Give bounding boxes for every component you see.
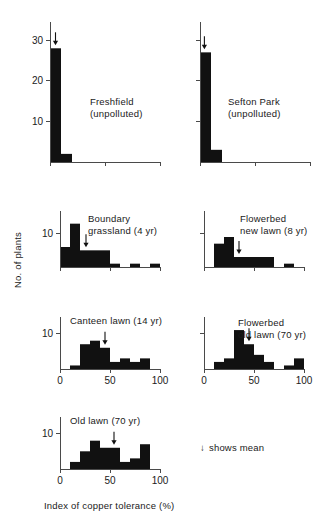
- histogram-bar: [100, 250, 110, 267]
- mean-arrow-marker: [111, 432, 116, 445]
- histogram-bar: [214, 362, 224, 369]
- panel-canteen-lawn: 05010010 Canteen lawn (14 yr): [42, 313, 164, 385]
- caption-line-1: Canteen lawn (14 yr): [70, 315, 162, 326]
- y-axis-tick-label: 20: [32, 75, 44, 86]
- histogram-bar: [100, 348, 110, 369]
- histogram-bar: [110, 362, 120, 369]
- panel-caption-canteen-lawn: Canteen lawn (14 yr): [70, 315, 162, 327]
- mean-arrow-marker: [83, 234, 88, 247]
- caption-line-2: (unpolluted): [90, 108, 143, 119]
- histogram-bar: [214, 244, 224, 267]
- histogram-bar: [284, 365, 294, 369]
- x-axis-tick-label: 50: [104, 375, 116, 386]
- panel-caption-old-lawn: Old lawn (70 yr): [70, 415, 140, 427]
- mean-arrow-marker: [102, 332, 107, 345]
- histogram-bar: [70, 462, 80, 469]
- histogram-bar: [254, 257, 264, 267]
- y-axis-tick-label: 30: [32, 35, 44, 46]
- y-axis-tick-label: 10: [42, 228, 54, 239]
- y-axis-title: No. of plants: [12, 232, 23, 288]
- x-axis-tick-label: 100: [152, 375, 169, 386]
- caption-line-2: old lawn (70 yr): [238, 329, 306, 340]
- histogram-bar: [60, 247, 70, 267]
- legend-mean-label: shows mean: [209, 442, 264, 453]
- caption-line-1: Freshfield: [90, 96, 134, 107]
- mean-arrow-marker: [236, 241, 241, 254]
- x-axis-tick-label: 100: [296, 375, 313, 386]
- x-axis-tick-label: 50: [104, 475, 116, 486]
- x-axis-tick-label: 0: [57, 375, 63, 386]
- panel-caption-sefton-park: Sefton Park(unpolluted): [228, 96, 281, 119]
- x-axis-tick-label: 50: [248, 375, 260, 386]
- histogram-bar: [90, 441, 100, 469]
- caption-line-1: Flowerbed: [238, 317, 284, 328]
- mean-arrow-marker: [53, 32, 58, 45]
- panel-caption-flowerbed-new-lawn: Flowerbednew lawn (8 yr): [240, 213, 307, 236]
- caption-line-1: Old lawn (70 yr): [70, 415, 140, 426]
- histogram-bar: [80, 344, 90, 369]
- histogram-bar: [80, 451, 90, 469]
- caption-line-1: Boundary: [88, 213, 130, 224]
- caption-line-2: (unpolluted): [228, 108, 281, 119]
- panel-boundary-grassland: 10 Boundarygrassland (4 yr): [42, 207, 164, 283]
- caption-line-1: Sefton Park: [228, 96, 280, 107]
- histogram-bar: [244, 344, 254, 369]
- x-axis-tick-label: 100: [152, 475, 169, 486]
- legend-mean-note: ↓shows mean: [200, 442, 264, 453]
- histogram-bar: [120, 358, 130, 369]
- histogram-bar: [254, 355, 264, 369]
- histogram-bar: [61, 154, 72, 162]
- mean-arrow-marker: [202, 36, 207, 49]
- histogram-bar: [140, 444, 150, 469]
- panel-old-lawn: 05010010 Old lawn (70 yr): [42, 413, 164, 485]
- histogram-bar: [264, 362, 274, 369]
- histogram-bar: [80, 250, 90, 267]
- x-axis-tick-label: 0: [57, 475, 63, 486]
- down-arrow-icon: ↓: [200, 442, 205, 453]
- x-axis-title: Index of copper tolerance (%): [44, 500, 174, 511]
- panel-flowerbed-old-lawn: 050100 Flowerbedold lawn (70 yr): [186, 313, 308, 385]
- histogram-bar: [294, 358, 304, 369]
- histogram-bar: [120, 462, 130, 469]
- y-axis-tick-label: 10: [32, 116, 44, 127]
- panel-freshfield: 102030 Freshfield(unpolluted): [32, 18, 164, 178]
- histogram-bar: [70, 224, 80, 267]
- copper-tolerance-figure: 102030 Freshfield(unpolluted) Sefton Par…: [0, 0, 328, 522]
- histogram-bar: [244, 257, 254, 267]
- caption-line-2: grassland (4 yr): [88, 225, 157, 236]
- caption-line-2: new lawn (8 yr): [240, 225, 307, 236]
- histogram-bar: [90, 341, 100, 369]
- histogram-bar: [110, 448, 120, 469]
- histogram-bar: [200, 52, 211, 162]
- y-axis-tick-label: 10: [42, 328, 54, 339]
- panel-caption-freshfield: Freshfield(unpolluted): [90, 96, 143, 119]
- x-axis-tick-label: 0: [201, 375, 207, 386]
- histogram-bar: [130, 362, 140, 369]
- histogram-bar: [50, 48, 61, 162]
- histogram-bar: [211, 150, 222, 162]
- histogram-bar: [234, 257, 244, 267]
- histogram-bar: [90, 250, 100, 267]
- histogram-bar: [130, 458, 140, 469]
- histogram-bar: [224, 237, 234, 267]
- histogram-bar: [224, 358, 234, 369]
- panel-sefton-park: Sefton Park(unpolluted): [182, 18, 314, 178]
- panel-caption-flowerbed-old-lawn: Flowerbedold lawn (70 yr): [238, 317, 306, 340]
- y-axis-tick-label: 10: [42, 428, 54, 439]
- histogram-bar: [70, 365, 80, 369]
- histogram-bar: [264, 257, 274, 267]
- caption-line-1: Flowerbed: [240, 213, 286, 224]
- histogram-bar: [140, 358, 150, 369]
- panel-flowerbed-new-lawn: Flowerbednew lawn (8 yr): [186, 207, 308, 283]
- panel-caption-boundary-grassland: Boundarygrassland (4 yr): [88, 213, 157, 236]
- histogram-bar: [100, 448, 110, 469]
